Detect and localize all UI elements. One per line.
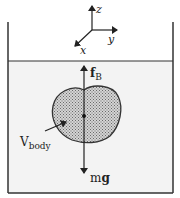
x-axis-label: x <box>80 44 87 57</box>
volume-subscript: body <box>29 141 52 151</box>
z-axis-label: z <box>95 3 102 16</box>
coordinate-axes: z y x <box>75 3 117 57</box>
gravity-symbol: g <box>101 171 110 185</box>
weight-force-label: mg <box>90 171 110 185</box>
y-axis-label: y <box>107 33 115 46</box>
mass-symbol: m <box>90 171 102 185</box>
volume-symbol: V <box>19 135 29 149</box>
buoyancy-diagram: z y x fB mg Vbody <box>0 0 180 198</box>
center-of-mass-dot <box>82 114 86 118</box>
buoyancy-subscript: B <box>95 72 102 82</box>
submerged-body <box>52 86 120 143</box>
